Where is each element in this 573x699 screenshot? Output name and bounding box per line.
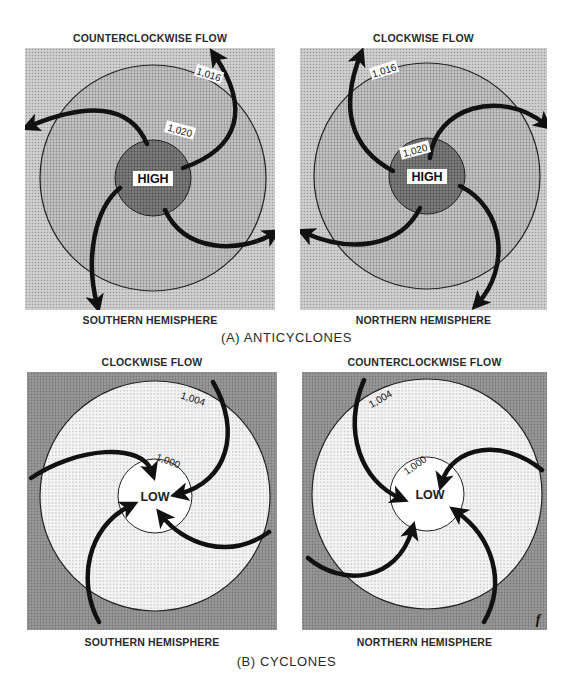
cyclone-southern-diagram: 1,004 1,000 LOW (27, 372, 277, 630)
cyclone-northern-diagram: 1,004 1,000 LOW f (302, 372, 547, 630)
center-label-low: LOW (415, 488, 444, 502)
hemisphere-label-b-left: SOUTHERN HEMISPHERE (27, 636, 277, 648)
center-label-high: HIGH (137, 172, 168, 186)
center-label-low: LOW (140, 490, 169, 504)
hemisphere-label-b-right: NORTHERN HEMISPHERE (302, 636, 547, 648)
center-label-high: HIGH (411, 170, 442, 184)
section-title-anticyclones: (A) ANTICYCLONES (0, 330, 573, 345)
section-title-cyclones: (B) CYCLONES (0, 654, 573, 669)
hemisphere-label-a-left: SOUTHERN HEMISPHERE (25, 314, 275, 326)
flow-label-a-right: CLOCKWISE FLOW (300, 32, 547, 44)
hemisphere-label-a-right: NORTHERN HEMISPHERE (300, 314, 547, 326)
flow-label-b-right: COUNTERCLOCKWISE FLOW (302, 356, 547, 368)
flow-label-b-left: CLOCKWISE FLOW (27, 356, 277, 368)
anticyclone-northern-diagram: 1,020 1,016 HIGH (300, 48, 547, 310)
anticyclone-southern-diagram: 1,020 1,016 HIGH (25, 48, 275, 310)
flow-label-a-left: COUNTERCLOCKWISE FLOW (25, 32, 275, 44)
